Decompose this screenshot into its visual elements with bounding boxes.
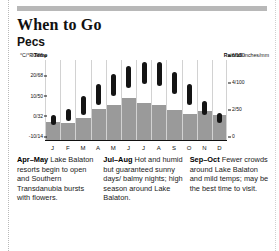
left-tick-2: 10/50 [30, 93, 43, 98]
month-label-11: D [212, 144, 227, 152]
panel-content: When to Go Pecs °C/°F Temp Rainfall inch… [17, 6, 269, 246]
rainfall-bar [183, 114, 197, 141]
rainfall-bar [167, 110, 181, 141]
temperature-capsule [126, 66, 131, 88]
season-notes: Apr–May Lake Balaton resorts begin to op… [17, 155, 269, 203]
temperature-capsule [142, 62, 147, 84]
season-note: Apr–May Lake Balaton resorts begin to op… [17, 155, 96, 203]
temperature-capsule [157, 62, 162, 86]
month-column [75, 60, 90, 141]
temperature-capsule [111, 74, 116, 96]
month-column [197, 60, 212, 141]
when-to-go-panel: When to Go Pecs °C/°F Temp Rainfall inch… [0, 0, 279, 251]
right-dotted-rule [275, 0, 277, 251]
rainfall-bar [198, 111, 212, 141]
plot-area: 30/8620/6810/500/32-10/14 6/1504/1002/50… [45, 60, 227, 141]
season-note-period: Jul–Aug [103, 155, 132, 164]
month-label-0: J [45, 144, 60, 152]
rainfall-bar [107, 105, 121, 141]
rainfall-bar [46, 122, 60, 141]
right-tick-0: 6/150 [232, 53, 245, 58]
rainfall-bar [61, 123, 75, 141]
temperature-capsule [81, 96, 86, 114]
temperature-capsule [66, 109, 71, 121]
climate-chart: °C/°F Temp Rainfall inches/mm 30/8620/68… [17, 52, 269, 156]
x-axis-line [45, 140, 227, 141]
page-title: When to Go [17, 16, 269, 34]
month-label-4: M [106, 144, 121, 152]
temperature-capsule [96, 84, 101, 104]
month-column [166, 60, 181, 141]
left-tick-0: 30/86 [30, 53, 43, 58]
month-column [106, 60, 121, 141]
month-label-9: O [182, 144, 197, 152]
left-tick-4: -10/14 [29, 134, 43, 139]
month-label-6: J [136, 144, 151, 152]
left-tick-3: 0/32 [33, 113, 43, 118]
rainfall-bar [122, 98, 136, 141]
month-column [60, 60, 75, 141]
month-column [136, 60, 151, 141]
right-tick-2: 2/50 [232, 107, 242, 112]
month-label-7: A [151, 144, 166, 152]
month-labels: JFMAMJJASOND [45, 144, 227, 152]
temperature-capsule [217, 113, 222, 123]
temperature-capsule [172, 72, 177, 94]
right-tick-1: 4/100 [232, 80, 245, 85]
right-tick-3: 0 [232, 134, 235, 139]
left-tick-1: 20/68 [30, 73, 43, 78]
month-column [151, 60, 166, 141]
month-label-3: A [91, 144, 106, 152]
month-columns [45, 60, 227, 141]
month-label-8: S [166, 144, 181, 152]
temperature-capsule [51, 115, 56, 125]
season-note-period: Sep–Oct [190, 155, 220, 164]
rainfall-bar [76, 118, 90, 141]
month-column [182, 60, 197, 141]
month-column [91, 60, 106, 141]
month-label-1: F [60, 144, 75, 152]
city-subtitle: Pecs [17, 35, 269, 49]
right-axis-unit: inches/mm [244, 52, 269, 58]
rainfall-bar [152, 105, 166, 141]
month-column [45, 60, 60, 141]
season-note: Sep–Oct Fewer crowds around Lake Balaton… [190, 155, 269, 203]
season-note: Jul–Aug Hot and humid but guaranteed sun… [103, 155, 182, 203]
temperature-capsule [187, 84, 192, 104]
left-dotted-rule [8, 0, 10, 251]
temperature-capsule [202, 101, 207, 115]
month-label-2: M [75, 144, 90, 152]
month-label-10: N [197, 144, 212, 152]
header-bar [17, 6, 267, 11]
rainfall-bar [92, 109, 106, 141]
month-label-5: J [121, 144, 136, 152]
month-column [212, 60, 227, 141]
rainfall-bar [137, 103, 151, 141]
month-column [121, 60, 136, 141]
season-note-period: Apr–May [17, 155, 48, 164]
